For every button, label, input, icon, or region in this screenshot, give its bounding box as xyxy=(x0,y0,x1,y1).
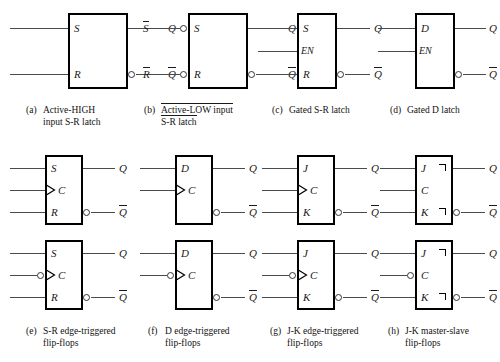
symbol-c-input-wire-r xyxy=(258,74,297,75)
symbol-f-top-label-qbar: Q xyxy=(249,207,257,218)
caption-a-line1: Active-HIGH xyxy=(43,105,95,115)
symbol-f-top-pin-d: D xyxy=(181,163,189,174)
symbol-b-bubble-s xyxy=(180,25,187,32)
symbol-e-top-label-q: Q xyxy=(119,163,127,174)
symbol-d-pin-d: D xyxy=(421,23,429,34)
symbol-h-bottom-pin-k: K xyxy=(421,292,428,303)
symbol-h-bottom-output-wire-q xyxy=(453,253,485,254)
symbol-b-bubble-r xyxy=(180,71,187,78)
caption-d-line1: Gated D latch xyxy=(407,105,460,115)
symbol-e-bottom-label-qbar: Q xyxy=(119,292,127,303)
symbol-h-bottom-output-wire-qbar xyxy=(461,297,485,298)
symbol-e-bottom-input-wire-c xyxy=(10,275,37,276)
symbol-e-top-output-wire-qbar xyxy=(91,212,115,213)
symbol-h-top-pin-k: K xyxy=(421,207,428,218)
symbol-g-top-pin-k: K xyxy=(303,207,310,218)
caption-h: (h)J-K master-slave flip-flops xyxy=(388,325,469,349)
symbol-b-input-wire-r xyxy=(158,74,180,75)
symbol-g-top-input-wire-k xyxy=(262,212,297,213)
symbol-f-bottom-pin-c: C xyxy=(188,270,195,281)
symbol-e-top-input-wire-c xyxy=(10,190,45,191)
symbol-a-input-wire-s xyxy=(10,28,68,29)
symbol-c-pin-r: R xyxy=(303,69,310,80)
symbol-h-bottom-postponed-output-icon-k xyxy=(439,293,446,300)
figure-canvas: S R Q Q (a)Active-HIGH input S-R latch S… xyxy=(0,0,500,362)
symbol-h-bottom-label-qbar: Q xyxy=(489,292,497,303)
symbol-f-top-input-wire-d xyxy=(140,168,175,169)
symbol-h-top-pin-j: J xyxy=(421,163,426,174)
symbol-h-top-label-qbar: Q xyxy=(489,207,497,218)
symbol-e-top-output-wire-q xyxy=(83,168,115,169)
symbol-g-bottom-output-wire-q xyxy=(335,253,367,254)
symbol-h-top-input-wire-c xyxy=(380,190,415,191)
symbol-h-top-pin-c: C xyxy=(421,185,428,196)
symbol-e-top-pin-s: S xyxy=(51,163,57,174)
symbol-g-bottom-dynamic-triangle-icon xyxy=(297,269,308,281)
symbol-e-bottom-bubble-c xyxy=(37,272,44,279)
symbol-g-top-input-wire-j xyxy=(262,168,297,169)
symbol-g-top-label-qbar: Q xyxy=(371,207,379,218)
caption-b-line2: S-R latch xyxy=(161,116,197,128)
symbol-e-top-input-wire-r xyxy=(10,212,45,213)
symbol-h-bottom-bubble-c xyxy=(407,272,414,279)
symbol-g-top-input-wire-c xyxy=(262,190,297,191)
symbol-g-bottom-pin-c: C xyxy=(310,270,317,281)
symbol-h-bottom-postponed-output-icon-j xyxy=(439,249,446,256)
caption-c-tag: (c) xyxy=(272,104,289,116)
caption-f: (f)D edge-triggered flip-flops xyxy=(148,325,230,349)
symbol-e-bottom-input-wire-r xyxy=(10,297,45,298)
symbol-b-ext-label-rbar: R xyxy=(143,69,150,80)
symbol-h-bottom-label-q: Q xyxy=(489,248,497,259)
symbol-f-top-output-wire-q xyxy=(213,168,245,169)
symbol-h-bottom-input-wire-c xyxy=(380,275,407,276)
caption-h-line2: flip-flops xyxy=(405,337,469,349)
caption-a-line2: input S-R latch xyxy=(43,116,101,128)
caption-g-tag: (g) xyxy=(270,325,287,337)
symbol-h-top-label-q: Q xyxy=(489,163,497,174)
symbol-e-top-input-wire-s xyxy=(10,168,45,169)
symbol-d-bubble-qbar xyxy=(455,71,462,78)
symbol-e-top-pin-r: R xyxy=(51,207,58,218)
symbol-g-bottom-input-wire-k xyxy=(262,297,297,298)
symbol-c-input-wire-s xyxy=(258,28,297,29)
symbol-c-input-wire-en xyxy=(258,51,297,52)
symbol-e-bottom-dynamic-triangle-icon xyxy=(45,269,56,281)
caption-e-line2: flip-flops xyxy=(43,337,116,349)
symbol-g-top-label-q: Q xyxy=(371,163,379,174)
symbol-h-top-label-qbar-text: Q xyxy=(489,207,497,218)
symbol-c-bubble-qbar xyxy=(337,71,344,78)
symbol-e-bottom-label-qbar-text: Q xyxy=(119,292,127,303)
symbol-g-top-pin-c: C xyxy=(310,185,317,196)
symbol-h-top-input-wire-j xyxy=(380,168,415,169)
symbol-h-top-input-wire-k xyxy=(380,212,415,213)
symbol-g-top-pin-j: J xyxy=(303,163,308,174)
symbol-d-input-wire-d xyxy=(378,28,415,29)
symbol-f-bottom-label-q: Q xyxy=(249,248,257,259)
symbol-f-top-bubble-qbar xyxy=(213,209,220,216)
caption-f-line2: flip-flops xyxy=(165,337,230,349)
symbol-a-bubble-qbar xyxy=(128,71,135,78)
symbol-f-top-dynamic-triangle-icon xyxy=(175,184,186,196)
symbol-h-bottom-bubble-qbar xyxy=(453,294,460,301)
symbol-h-bottom-input-wire-j xyxy=(380,253,415,254)
symbol-b-bubble-qbar xyxy=(248,71,255,78)
symbol-b-pin-r: R xyxy=(194,69,201,80)
symbol-f-bottom-input-wire-d xyxy=(140,253,175,254)
symbol-f-top-output-wire-qbar xyxy=(221,212,245,213)
caption-h-tag: (h) xyxy=(388,325,405,337)
caption-b: (b)Active-LOW input S-R latch xyxy=(144,104,233,128)
caption-d-tag: (d) xyxy=(390,104,407,116)
symbol-e-top-label-qbar-text: Q xyxy=(119,207,127,218)
symbol-c-pin-en: EN xyxy=(301,46,314,56)
symbol-a-pin-s: S xyxy=(74,23,80,34)
caption-d: (d)Gated D latch xyxy=(390,104,460,116)
symbol-c-label-qbar-text: Q xyxy=(374,69,382,80)
caption-f-tag: (f) xyxy=(148,325,165,337)
symbol-d-label-qbar: Q xyxy=(489,69,497,80)
symbol-f-bottom-pin-d: D xyxy=(181,248,189,259)
symbol-f-bottom-bubble-c xyxy=(167,272,174,279)
symbol-b-pin-s: S xyxy=(194,23,200,34)
symbol-g-bottom-label-qbar: Q xyxy=(371,292,379,303)
symbol-h-top-output-wire-qbar xyxy=(461,212,485,213)
symbol-b-ext-label-rbar-text: R xyxy=(143,69,150,80)
